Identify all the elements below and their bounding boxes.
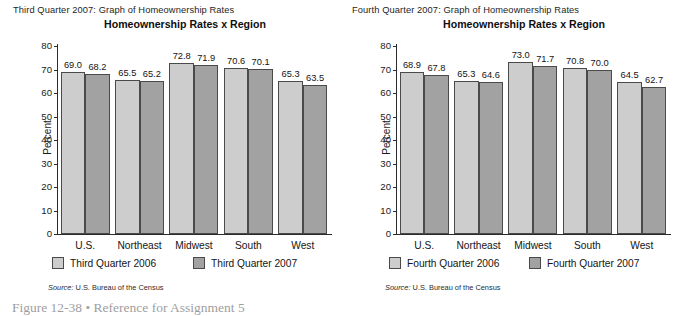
y-axis-tick-label: 10 [30,206,52,216]
bar[interactable] [248,69,273,234]
y-axis-tick-label: 0 [30,229,52,239]
x-axis-category-label: Midwest [506,240,560,251]
y-axis-tick-label: 80 [30,41,52,51]
legend-swatch-light [52,257,64,269]
bar[interactable] [617,82,642,234]
bar[interactable] [278,81,303,234]
y-axis-tick-label: 70 [30,65,52,75]
legend-item[interactable]: Third Quarter 2007 [193,257,297,269]
source-word: Source: [385,283,410,292]
bar[interactable] [424,75,449,234]
bar[interactable] [194,65,219,234]
bar-group: 65.565.2 [112,46,166,234]
legend-swatch-light [389,257,401,269]
y-axis-tick-label: 20 [30,182,52,192]
chart-title: Homeownership Rates x Region [40,18,330,30]
source-note: Source: U.S. Bureau of the Census [385,283,500,292]
x-axis-category-label: South [221,240,275,251]
bar[interactable] [479,82,504,234]
y-axis-tick-label: 30 [369,159,391,169]
bar-group: 70.870.0 [560,46,614,234]
y-axis-tick-label: 70 [369,65,391,75]
legend-swatch-dark [193,257,205,269]
y-axis-tick-label: 60 [369,88,391,98]
bar-group: 73.071.7 [506,46,560,234]
bar[interactable] [61,72,86,234]
bar[interactable] [169,63,194,234]
bar-group: 65.363.5 [276,46,330,234]
x-axis-category-label: U.S. [397,240,451,251]
chart-panel-third-quarter: Third Quarter 2007: Graph of Homeownersh… [0,0,339,300]
bar[interactable] [400,72,425,234]
bar-group: 65.364.6 [451,46,505,234]
bar-value-label: 70.0 [583,58,616,68]
legend-swatch-dark [529,257,541,269]
legend-label: Third Quarter 2007 [211,258,297,269]
legend-item[interactable]: Third Quarter 2006 [52,257,156,269]
bar[interactable] [224,68,249,234]
bar-group: 70.670.1 [221,46,275,234]
bar[interactable] [642,87,667,234]
x-axis-category-label: U.S. [58,240,112,251]
bar[interactable] [115,80,140,234]
bar[interactable] [454,81,479,234]
y-axis-tick-label: 30 [30,159,52,169]
x-axis-category-label: South [560,240,614,251]
bar-value-label: 71.7 [529,54,562,64]
plot-area: Percent 0102030405060708068.967.8U.S.65.… [397,46,669,234]
bar-group: 64.562.7 [615,46,669,234]
y-axis-tick-label: 40 [369,135,391,145]
bar-group: 72.871.9 [167,46,221,234]
y-axis-tick-label: 50 [369,112,391,122]
bar-group: 68.967.8 [397,46,451,234]
legend-label: Third Quarter 2006 [70,258,156,269]
y-axis-tick-label: 10 [369,206,391,216]
x-axis-category-label: West [615,240,669,251]
chart-legend: Third Quarter 2006Third Quarter 2007 [0,257,339,273]
bar-value-label: 62.7 [638,75,671,85]
bar[interactable] [85,74,110,234]
y-axis-tick-label: 40 [30,135,52,145]
y-axis-tick-label: 80 [369,41,391,51]
x-axis-category-label: Midwest [167,240,221,251]
chart-legend: Fourth Quarter 2006Fourth Quarter 2007 [339,257,678,273]
y-axis-tick-mark [393,234,397,235]
y-axis-tick-label: 60 [30,88,52,98]
chart-title: Homeownership Rates x Region [379,18,669,30]
bar[interactable] [508,62,533,234]
bar[interactable] [587,70,612,235]
bar-value-label: 70.1 [244,57,277,67]
x-axis-line [57,234,332,235]
y-axis-tick-label: 50 [30,112,52,122]
bar-value-label: 71.9 [190,53,223,63]
bar-value-label: 65.2 [136,69,169,79]
bar-group: 69.068.2 [58,46,112,234]
source-text: U.S. Bureau of the Census [76,283,164,292]
bar-value-label: 67.8 [420,63,453,73]
chart-subtitle: Third Quarter 2007: Graph of Homeownersh… [13,5,234,15]
bar[interactable] [533,66,558,234]
y-axis-tick-label: 0 [369,229,391,239]
plot-area: Percent 0102030405060708069.068.2U.S.65.… [58,46,330,234]
source-word: Source: [48,283,73,292]
bar[interactable] [303,85,328,234]
bar[interactable] [140,81,165,234]
y-axis-tick-label: 20 [369,182,391,192]
x-axis-line [396,234,671,235]
legend-item[interactable]: Fourth Quarter 2006 [389,257,499,269]
bar-value-label: 63.5 [299,73,332,83]
chart-subtitle: Fourth Quarter 2007: Graph of Homeowners… [352,5,579,15]
x-axis-category-label: Northeast [112,240,166,251]
chart-panel-fourth-quarter: Fourth Quarter 2007: Graph of Homeowners… [339,0,678,300]
x-axis-category-label: Northeast [451,240,505,251]
legend-label: Fourth Quarter 2007 [547,258,639,269]
x-axis-category-label: West [276,240,330,251]
figure-caption: Figure 12-38 • Reference for Assignment … [12,300,245,316]
bar-value-label: 64.6 [475,70,508,80]
source-text: U.S. Bureau of the Census [413,283,501,292]
bar[interactable] [563,68,588,234]
y-axis-tick-mark [54,234,58,235]
legend-label: Fourth Quarter 2006 [407,258,499,269]
legend-item[interactable]: Fourth Quarter 2007 [529,257,639,269]
